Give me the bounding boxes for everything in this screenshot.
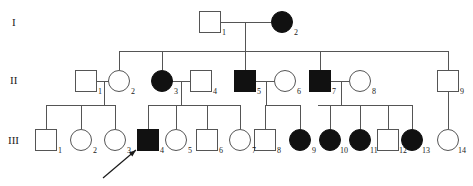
id-label-iii-14: 14: [458, 146, 466, 155]
individual-iii-3-female-unaffected[interactable]: [105, 130, 126, 151]
individual-i-2-female-affected[interactable]: [272, 12, 293, 33]
individual-iii-5-female-unaffected[interactable]: [166, 130, 187, 151]
individual-iii-10-female-affected[interactable]: [320, 130, 341, 151]
individual-ii-4-male-unaffected[interactable]: [191, 71, 212, 92]
individual-ii-9-male-unaffected[interactable]: [438, 71, 459, 92]
id-label-i-2: 2: [294, 28, 298, 37]
individual-ii-8-female-unaffected[interactable]: [350, 71, 371, 92]
individual-i-1-male-unaffected[interactable]: [200, 12, 221, 33]
pedigree-canvas: 121234567891234567891011121314 IIIIII: [0, 0, 473, 186]
individual-ii-1-male-unaffected[interactable]: [76, 71, 97, 92]
id-label-iii-11: 11: [370, 146, 378, 155]
individual-iii-1-male-unaffected[interactable]: [36, 130, 57, 151]
individual-iii-9-female-affected[interactable]: [290, 130, 311, 151]
generation-labels-layer: IIIIII: [8, 16, 19, 146]
id-label-iii-8: 8: [277, 146, 281, 155]
pedigree-chart: 121234567891234567891011121314 IIIIII: [0, 0, 473, 186]
id-label-iii-2: 2: [93, 146, 97, 155]
generation-label-iii: III: [8, 134, 19, 146]
id-label-iii-10: 10: [340, 146, 348, 155]
id-label-ii-9: 9: [460, 87, 464, 96]
generation-label-ii: II: [10, 74, 18, 86]
id-label-ii-3: 3: [174, 87, 178, 96]
id-label-iii-4: 4: [160, 146, 164, 155]
id-label-ii-7: 7: [332, 87, 336, 96]
individual-iii-2-female-unaffected[interactable]: [71, 130, 92, 151]
id-label-iii-9: 9: [312, 146, 316, 155]
id-label-ii-4: 4: [213, 87, 217, 96]
individual-ii-7-male-affected[interactable]: [310, 71, 331, 92]
id-label-ii-2: 2: [131, 87, 135, 96]
id-label-iii-13: 13: [422, 146, 430, 155]
individual-iii-6-male-unaffected[interactable]: [197, 130, 218, 151]
id-label-ii-8: 8: [372, 87, 376, 96]
id-label-ii-1: 1: [98, 87, 102, 96]
individual-ii-6-female-unaffected[interactable]: [275, 71, 296, 92]
individual-ii-2-female-unaffected[interactable]: [109, 71, 130, 92]
individual-iii-7-female-unaffected[interactable]: [230, 130, 251, 151]
individual-iii-11-female-affected[interactable]: [350, 130, 371, 151]
individual-ii-3-female-affected[interactable]: [152, 71, 173, 92]
individual-iii-14-female-unaffected[interactable]: [438, 130, 459, 151]
id-label-iii-7: 7: [252, 146, 256, 155]
id-label-iii-12: 12: [399, 146, 407, 155]
id-label-ii-6: 6: [297, 87, 301, 96]
id-label-iii-5: 5: [188, 146, 192, 155]
individual-iii-4-male-affected[interactable]: [138, 130, 159, 151]
id-label-iii-6: 6: [219, 146, 223, 155]
individual-ii-5-male-affected[interactable]: [235, 71, 256, 92]
generation-label-i: I: [12, 16, 16, 28]
id-label-ii-5: 5: [257, 87, 261, 96]
individual-iii-8-male-unaffected[interactable]: [255, 130, 276, 151]
individual-iii-12-male-unaffected[interactable]: [378, 130, 399, 151]
id-label-i-1: 1: [222, 28, 226, 37]
id-label-iii-1: 1: [58, 146, 62, 155]
proband-arrow-layer: [103, 150, 136, 178]
